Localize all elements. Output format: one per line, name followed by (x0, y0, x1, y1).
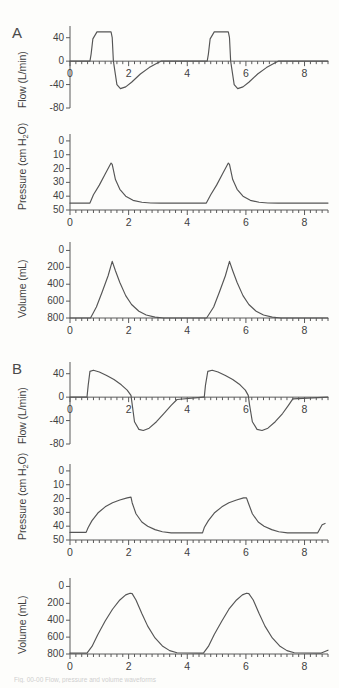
y-tick-label: 0 (32, 55, 64, 66)
y-axis-label-b-pressure: Pressure (cm H2O) (16, 453, 30, 540)
y-tick-label: 50 (32, 534, 64, 545)
y-axis-label-b-volume: Volume (mL) (16, 596, 28, 654)
y-tick-label: -80 (32, 438, 64, 449)
y-axis-label-a-volume: Volume (mL) (16, 260, 28, 318)
x-tick-label: 0 (58, 546, 82, 558)
y-axis-label-a-pressure: Pressure (cm H2O) (16, 123, 30, 210)
y-tick-label: 40 (32, 520, 64, 531)
y-tick-label: 50 (32, 204, 64, 215)
x-tick-label: 8 (293, 660, 317, 672)
y-tick-label: 0 (32, 580, 64, 591)
x-tick-label: 2 (117, 403, 141, 415)
curve-b-volume (70, 593, 328, 653)
x-tick-label: 2 (117, 216, 141, 228)
x-tick-label: 6 (234, 546, 258, 558)
y-tick-label: 20 (32, 163, 64, 174)
curve-a-pressure (70, 163, 328, 203)
y-tick-label: 40 (32, 368, 64, 379)
y-axis-label-a-flow: Flow (L/min) (16, 51, 28, 108)
x-tick-label: 0 (58, 216, 82, 228)
y-tick-label: 800 (32, 648, 64, 659)
x-tick-label: 4 (175, 403, 199, 415)
y-tick-label: 400 (32, 614, 64, 625)
y-tick-label: 600 (32, 631, 64, 642)
panel-letter-b: B (12, 360, 22, 377)
y-tick-label: 800 (32, 312, 64, 323)
y-tick-label: 40 (32, 32, 64, 43)
y-tick-label: 200 (32, 261, 64, 272)
y-tick-label: 30 (32, 506, 64, 517)
x-tick-label: 4 (175, 546, 199, 558)
y-tick-label: 20 (32, 493, 64, 504)
x-tick-label: 0 (58, 67, 82, 79)
x-tick-label: 6 (234, 216, 258, 228)
x-tick-label: 8 (293, 67, 317, 79)
figure-caption: Fig. 00-00 Flow, pressure and volume wav… (14, 676, 334, 683)
plot-b-volume (70, 578, 328, 654)
x-tick-label: 8 (293, 324, 317, 336)
plot-a-volume (70, 242, 328, 318)
x-tick-label: 2 (117, 67, 141, 79)
x-tick-label: 8 (293, 403, 317, 415)
y-tick-label: -80 (32, 102, 64, 113)
x-tick-label: 2 (117, 660, 141, 672)
x-tick-label: 8 (293, 216, 317, 228)
y-tick-label: 10 (32, 149, 64, 160)
curve-b-pressure (70, 497, 325, 533)
x-tick-label: 0 (58, 403, 82, 415)
x-tick-label: 4 (175, 67, 199, 79)
y-tick-label: 0 (32, 135, 64, 146)
x-tick-label: 4 (175, 216, 199, 228)
x-tick-label: 0 (58, 660, 82, 672)
panel-letter-a: A (12, 24, 22, 41)
y-tick-label: 0 (32, 465, 64, 476)
curve-a-flow (70, 32, 328, 89)
x-tick-label: 6 (234, 403, 258, 415)
ventilator-waveform-figure: AFlow (L/min)400-40-8002468Pressure (cm … (0, 0, 339, 688)
curve-b-flow (70, 370, 328, 430)
x-tick-label: 6 (234, 660, 258, 672)
y-tick-label: 10 (32, 479, 64, 490)
x-tick-label: 6 (234, 67, 258, 79)
y-tick-label: 0 (32, 391, 64, 402)
x-tick-label: 4 (175, 660, 199, 672)
y-tick-label: 200 (32, 597, 64, 608)
y-tick-label: -40 (32, 415, 64, 426)
y-tick-label: 0 (32, 244, 64, 255)
y-axis-label-b-flow: Flow (L/min) (16, 387, 28, 444)
x-tick-label: 2 (117, 324, 141, 336)
x-tick-label: 4 (175, 324, 199, 336)
plot-a-pressure (70, 134, 328, 210)
y-tick-label: -40 (32, 79, 64, 90)
plot-b-pressure (70, 464, 328, 540)
x-tick-label: 8 (293, 546, 317, 558)
x-tick-label: 6 (234, 324, 258, 336)
curve-a-volume (70, 261, 328, 318)
y-tick-label: 30 (32, 176, 64, 187)
y-tick-label: 600 (32, 295, 64, 306)
x-tick-label: 0 (58, 324, 82, 336)
y-tick-label: 40 (32, 190, 64, 201)
x-tick-label: 2 (117, 546, 141, 558)
y-tick-label: 400 (32, 278, 64, 289)
